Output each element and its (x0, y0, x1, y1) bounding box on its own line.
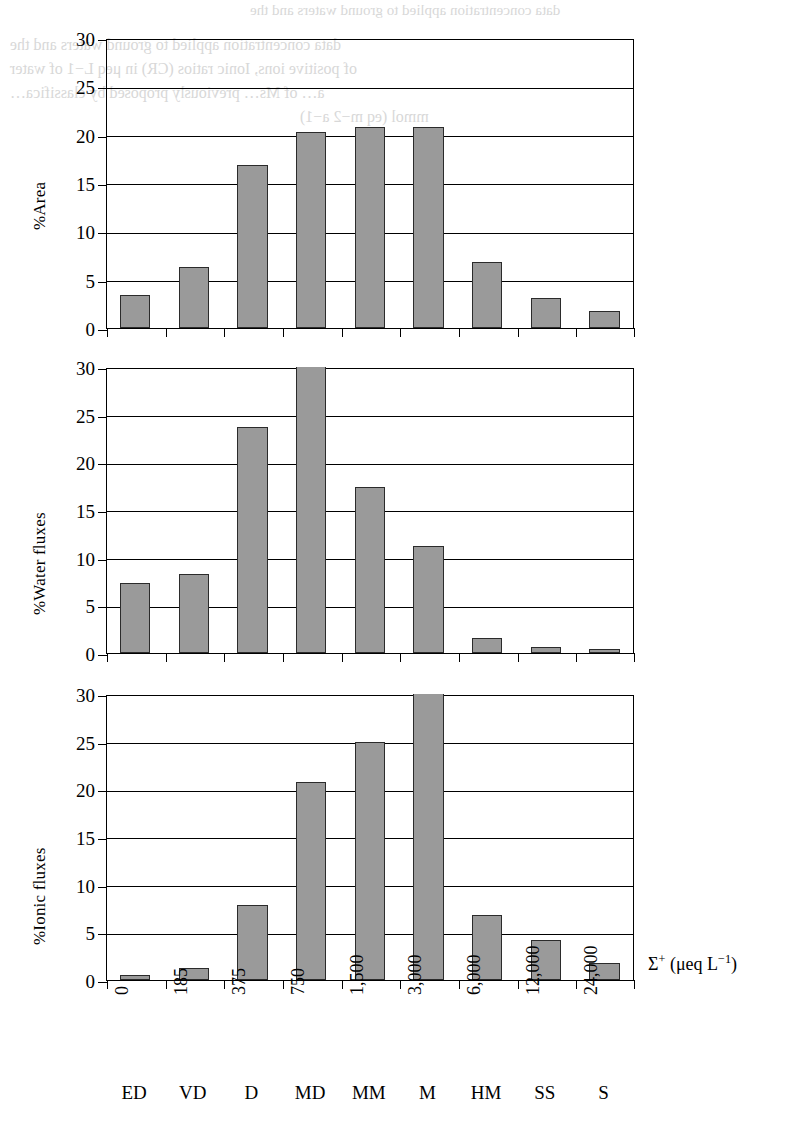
y-axis-tick-label: 5 (86, 923, 96, 945)
y-axis-tick (98, 464, 107, 465)
x-axis-title: Σ+ (μeq L−1) (648, 952, 737, 975)
bar-SS (531, 647, 562, 653)
y-axis-tick-label: 0 (86, 644, 96, 666)
y-axis-tick-label: 15 (76, 828, 95, 850)
x-axis-tick (224, 653, 225, 662)
y-axis-tick (98, 512, 107, 513)
y-axis-tick-label: 25 (76, 733, 95, 755)
x-axis-tick (107, 653, 108, 662)
bar-MD (296, 782, 327, 980)
x-axis-tick (166, 653, 167, 662)
bar-D (237, 427, 268, 653)
plot-area-water: 051015202530 (106, 368, 634, 654)
y-axis-tick (98, 417, 107, 418)
y-axis-tick-label: 20 (76, 780, 95, 802)
y-axis-tick (98, 607, 107, 608)
y-axis-tick-label: 25 (76, 406, 95, 428)
x-axis-tick (518, 653, 519, 662)
category-label-M: M (419, 1082, 436, 1104)
category-label-MD: MD (295, 1082, 326, 1104)
y-axis-tick-label: 20 (76, 453, 95, 475)
y-axis-tick-label: 5 (86, 596, 96, 618)
y-axis-tick (98, 982, 107, 983)
x-axis-tick (459, 980, 460, 989)
bar-ED (120, 583, 151, 653)
x-axis-tick (400, 653, 401, 662)
x-axis-tick (342, 653, 343, 662)
y-axis-tick (98, 744, 107, 745)
y-axis-tick (98, 696, 107, 697)
x-axis-title-units: (μeq L (665, 954, 718, 974)
x-axis-tick (634, 653, 635, 662)
y-axis-tick-label: 10 (76, 876, 95, 898)
y-axis-tick-label: 10 (76, 549, 95, 571)
bar-MM (355, 742, 386, 980)
bar-HM (472, 638, 503, 653)
category-label-HM: HM (471, 1082, 502, 1104)
y-axis-tick (98, 934, 107, 935)
gridline (107, 416, 633, 417)
x-axis-tick (283, 653, 284, 662)
category-label-VD: VD (179, 1082, 206, 1104)
x-axis-tick (634, 980, 635, 989)
bar-VD (179, 574, 210, 653)
x-axis-tick (107, 980, 108, 989)
y-axis-tick (98, 887, 107, 888)
y-axis-tick-label: 0 (86, 971, 96, 993)
category-label-ED: ED (121, 1082, 146, 1104)
y-axis-tick-label: 15 (76, 501, 95, 523)
x-axis-tick-label: 1,500 (347, 955, 368, 996)
x-axis-tick-label: 375 (229, 968, 250, 995)
x-axis-tick (576, 980, 577, 989)
bar-ED (120, 975, 151, 980)
bar-M (413, 546, 444, 653)
x-axis-tick-label: 750 (288, 968, 309, 995)
y-axis-tick (98, 560, 107, 561)
x-axis-tick-label: 0 (112, 986, 133, 995)
x-axis-tick (283, 980, 284, 989)
figure-root: data concentration applied to ground wat… (0, 0, 785, 1128)
x-axis-tick (518, 980, 519, 989)
x-axis-tick-label: 3,000 (405, 955, 426, 996)
bar-M (413, 694, 444, 980)
plot-area-ionic: 051015202530 (106, 695, 634, 981)
x-axis-tick (576, 653, 577, 662)
y-axis-tick (98, 369, 107, 370)
y-axis-tick (98, 655, 107, 656)
x-axis-title-sigma: Σ (648, 954, 658, 974)
x-axis-tick (166, 980, 167, 989)
bar-MM (355, 487, 386, 653)
y-axis-tick (98, 791, 107, 792)
category-label-SS: SS (534, 1082, 555, 1104)
x-axis-tick (224, 980, 225, 989)
x-axis-tick-label: 24,000 (581, 946, 602, 996)
y-axis-tick-label: 30 (76, 685, 95, 707)
x-axis-tick-label: 6,000 (464, 955, 485, 996)
bar-S (589, 649, 620, 653)
panel-ionic-fluxes: %Ionic fluxes 051015202530 (0, 0, 785, 345)
y-axis-tick-label: 30 (76, 358, 95, 380)
y-axis-label-water: %Water fluxes (30, 512, 50, 615)
y-axis-tick (98, 839, 107, 840)
x-axis-title-units-end: ) (731, 954, 737, 974)
category-label-MM: MM (352, 1082, 386, 1104)
x-axis-tick (459, 653, 460, 662)
y-axis-label-ionic: %Ionic fluxes (30, 848, 50, 946)
gridline (107, 464, 633, 465)
x-axis-tick (400, 980, 401, 989)
bar-MD (296, 367, 327, 653)
x-axis-title-units-exp: −1 (718, 952, 731, 966)
x-axis-tick-label: 12,000 (523, 946, 544, 996)
x-axis-tick (342, 980, 343, 989)
x-axis-tick-label: 185 (171, 968, 192, 995)
category-label-D: D (245, 1082, 259, 1104)
category-label-S: S (598, 1082, 609, 1104)
